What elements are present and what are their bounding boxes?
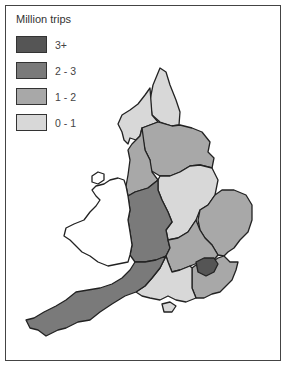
- region-wales: [64, 178, 132, 266]
- region-anglesey: [92, 172, 104, 184]
- england-map: [0, 0, 288, 366]
- region-isle-of-wight: [162, 302, 176, 312]
